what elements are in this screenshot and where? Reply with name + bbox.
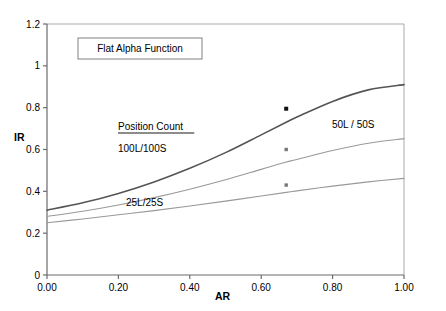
chart-figure: 00.20.40.60.811.2 0.000.200.400.600.801.… xyxy=(0,0,446,311)
y-tick-label: 0.2 xyxy=(26,228,40,239)
chart-background xyxy=(0,0,446,311)
legend-heading: Position Count xyxy=(118,121,183,132)
data-marker-50l-50s xyxy=(284,148,287,151)
y-axis-title: IR xyxy=(14,131,25,143)
data-marker-25l-25s xyxy=(284,183,287,186)
x-tick-label: 0.80 xyxy=(323,282,343,293)
y-tick-label: 0.8 xyxy=(26,102,40,113)
x-tick-label: 1.00 xyxy=(394,282,414,293)
label-100l-100s: 100L/100S xyxy=(118,143,167,154)
data-marker-100l-100s xyxy=(284,107,288,111)
x-tick-label: 0.00 xyxy=(37,282,57,293)
y-tick-label: 1 xyxy=(34,60,40,71)
flat-alpha-function-chart: 00.20.40.60.811.2 0.000.200.400.600.801.… xyxy=(0,0,446,311)
x-tick-label: 0.40 xyxy=(180,282,200,293)
y-tick-label: 0.4 xyxy=(26,186,40,197)
x-tick-label: 0.20 xyxy=(109,282,129,293)
chart-title-label: Flat Alpha Function xyxy=(97,43,183,54)
label-25l-25s: 25L/25S xyxy=(126,197,164,208)
y-tick-label: 0.6 xyxy=(26,144,40,155)
x-axis-title: AR xyxy=(215,290,231,302)
y-tick-label: 1.2 xyxy=(26,19,40,30)
y-tick-label: 0 xyxy=(34,270,40,281)
chart-title-box: Flat Alpha Function xyxy=(78,38,202,59)
x-tick-label: 0.60 xyxy=(251,282,271,293)
label-50l-50s: 50L / 50S xyxy=(332,119,375,130)
